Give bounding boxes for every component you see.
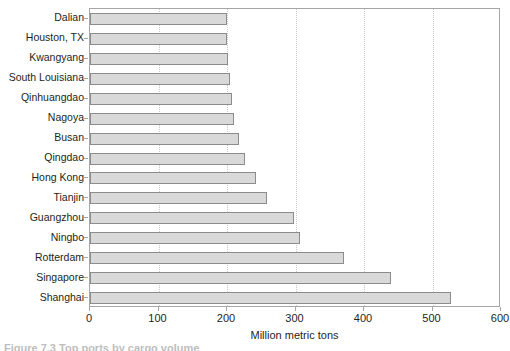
y-axis-label: Singapore [0, 272, 84, 283]
y-axis-tick [84, 38, 88, 39]
x-axis-tick [226, 307, 227, 311]
bar [90, 192, 267, 204]
x-axis-tick-label: 500 [412, 312, 452, 325]
bar [90, 113, 234, 125]
y-axis-label: Tianjin [0, 192, 84, 203]
y-axis-label: Qinhuangdao [0, 92, 84, 103]
y-axis-category-labels: DalianHouston, TXKwangyangSouth Louisian… [0, 8, 84, 307]
bar [90, 292, 451, 304]
x-axis-tick [363, 307, 364, 311]
x-axis-tick-label: 100 [138, 312, 178, 325]
y-axis-tick [84, 78, 88, 79]
bar [90, 272, 391, 284]
y-axis-tick [84, 58, 88, 59]
x-axis-tick [500, 307, 501, 311]
bar [90, 153, 245, 165]
y-axis-tick [84, 277, 88, 278]
y-axis-tick [84, 158, 88, 159]
bar [90, 13, 227, 25]
y-axis-tick [84, 237, 88, 238]
bar [90, 252, 344, 264]
bar [90, 73, 230, 85]
y-axis-label: Shanghai [0, 292, 84, 303]
x-axis-tick-label: 0 [69, 312, 109, 325]
x-axis-tick-label: 300 [275, 312, 315, 325]
bars-layer [90, 9, 499, 306]
y-axis-label: Guangzhou [0, 212, 84, 223]
y-axis-label: Ningbo [0, 232, 84, 243]
y-axis-tick [84, 138, 88, 139]
x-axis-tick-label: 200 [206, 312, 246, 325]
bar [90, 172, 256, 184]
x-axis-tick-label: 600 [480, 312, 510, 325]
y-axis-tick [84, 118, 88, 119]
bar [90, 53, 228, 65]
bar [90, 212, 294, 224]
y-axis-tick [84, 98, 88, 99]
y-axis-tick [84, 197, 88, 198]
y-axis-label: Nagoya [0, 112, 84, 123]
x-axis-tick [89, 307, 90, 311]
bar [90, 232, 300, 244]
y-axis-label: Busan [0, 132, 84, 143]
bar [90, 33, 227, 45]
bar [90, 93, 232, 105]
x-axis-tick [295, 307, 296, 311]
plot-area [89, 8, 500, 307]
y-axis-label: Kwangyang [0, 52, 84, 63]
bar [90, 133, 239, 145]
y-axis-tick [84, 257, 88, 258]
y-axis-tick [84, 297, 88, 298]
x-axis-title: Million metric tons [89, 329, 500, 342]
x-axis-tick [432, 307, 433, 311]
y-axis-tick [84, 217, 88, 218]
y-axis-tick [84, 177, 88, 178]
y-axis-label: Dalian [0, 12, 84, 23]
y-axis-label: Houston, TX [0, 32, 84, 43]
y-axis-label: Hong Kong [0, 172, 84, 183]
bar-chart-figure: DalianHouston, TXKwangyangSouth Louisian… [0, 0, 510, 351]
x-axis-tick [158, 307, 159, 311]
y-axis-label: Qingdao [0, 152, 84, 163]
x-axis-tick-label: 400 [343, 312, 383, 325]
y-axis-label: South Louisiana [0, 72, 84, 83]
figure-caption-partial: Figure 7.3 Top ports by cargo volume [4, 342, 214, 351]
y-axis-label: Rotterdam [0, 252, 84, 263]
y-axis-tick [84, 18, 88, 19]
